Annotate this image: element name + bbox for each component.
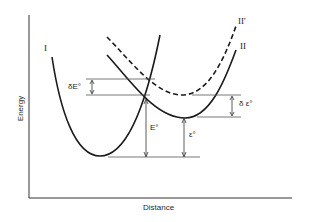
x-axis-label: Distance [143,203,174,212]
epsilon0-label: ε° [189,130,196,139]
y-axis-label: Energy [16,94,25,124]
curve-II-label: II [240,41,246,51]
delta-E0-label: δE° [68,82,81,91]
curve-II-prime [107,26,236,95]
curve-I-label: I [44,43,47,53]
curve-II-prime-label: II' [238,16,246,26]
E0-label: E° [150,123,159,132]
energy-distance-diagram [0,0,309,222]
curve-II [107,50,236,118]
delta-epsilon0-label: δ ε° [239,99,252,108]
